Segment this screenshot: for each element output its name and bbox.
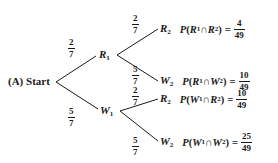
branch-w1-r2 <box>120 99 158 111</box>
branch-start-w1 <box>56 82 98 109</box>
node-r2: R2 <box>160 92 171 106</box>
joint-prob-r1-r2: 449 <box>234 19 245 40</box>
outcome-w1-w2: W2 P(W1 ∩ W2) = 2549 <box>160 132 252 152</box>
node-r2: R2 <box>160 22 171 36</box>
prob-start-w1: 5 7 <box>68 107 75 128</box>
node-w2: W2 <box>160 135 173 149</box>
prob-r1-r2: 2 7 <box>132 14 139 35</box>
outcome-w1-r2: R2 P(W1 ∩ R2) = 1049 <box>160 89 247 109</box>
start-label: (A) Start <box>8 75 50 87</box>
node-w1: W1 <box>100 104 113 118</box>
node-w2: W2 <box>160 74 173 88</box>
branch-w1-w2 <box>120 111 158 141</box>
joint-prob-w1-w2: 2549 <box>241 132 252 153</box>
prob-w1-w2: 5 7 <box>132 136 139 157</box>
prob-start-r1: 2 7 <box>68 38 75 59</box>
branch-start-r1 <box>56 56 96 82</box>
prob-w1-r2: 2 7 <box>132 86 139 107</box>
joint-prob-w1-r2: 1049 <box>236 89 247 110</box>
outcome-r1-r2: R2 P(R1 ∩ R2) = 449 <box>160 19 245 39</box>
node-r1: R1 <box>99 48 110 62</box>
prob-r1-w2: 5 7 <box>132 65 139 86</box>
